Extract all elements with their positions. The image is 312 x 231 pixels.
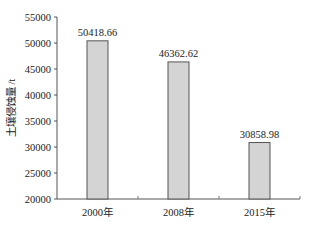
y-tick-label: 40000 (25, 90, 51, 101)
x-category-label: 2015年 (244, 206, 275, 218)
y-tick-label: 35000 (25, 116, 51, 127)
y-tick-label: 20000 (25, 194, 51, 205)
y-tick-label: 25000 (25, 168, 51, 179)
x-category-label: 2008年 (163, 206, 194, 218)
bar-chart: 2000025000300003500040000450005000055000… (0, 0, 312, 231)
bars: 50418.6646362.6230858.98 (78, 27, 279, 199)
y-tick-label: 45000 (25, 64, 51, 75)
y-tick-label: 55000 (25, 12, 51, 23)
bar-value-label: 30858.98 (240, 129, 279, 140)
bar-value-label: 46362.62 (159, 48, 198, 59)
y-axis-label: 土壤侵蚀量 /t (5, 79, 17, 138)
y-axis: 2000025000300003500040000450005000055000 (25, 12, 57, 205)
bar (249, 143, 270, 199)
x-category-label: 2000年 (82, 206, 113, 218)
bar (168, 62, 189, 199)
bar (87, 41, 108, 199)
y-tick-label: 50000 (25, 38, 51, 49)
bar-value-label: 50418.66 (78, 27, 117, 38)
y-tick-label: 30000 (25, 142, 51, 153)
